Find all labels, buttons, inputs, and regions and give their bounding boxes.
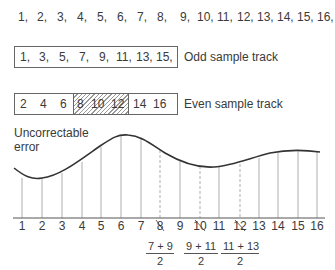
axis-tick-label: 1 bbox=[15, 219, 29, 233]
sample-lines bbox=[22, 135, 317, 218]
axis-tick-label: 2 bbox=[35, 219, 49, 233]
axis-tick-label: 16 bbox=[310, 219, 324, 233]
error-curve bbox=[14, 135, 320, 179]
axis-tick-label: 13 bbox=[252, 219, 266, 233]
axis-tick-label: 14 bbox=[271, 219, 285, 233]
interpolation-formula-8: 7 + 9 2 bbox=[146, 240, 174, 267]
axis-tick-label-crossed: 8 bbox=[153, 219, 167, 233]
axis-tick-label: 11 bbox=[212, 219, 226, 233]
axis-tick-label: 5 bbox=[94, 219, 108, 233]
axis-tick-label: 3 bbox=[55, 219, 69, 233]
interpolation-formula-12: 11 + 13 2 bbox=[221, 240, 259, 267]
axis-tick-label-crossed: 10 bbox=[193, 219, 207, 233]
interpolation-formula-10: 9 + 11 2 bbox=[184, 240, 218, 267]
axis-tick-label: 15 bbox=[291, 219, 305, 233]
axis-tick-label-crossed: 12 bbox=[233, 219, 247, 233]
axis-tick-label: 6 bbox=[114, 219, 128, 233]
axis-tick-label: 4 bbox=[75, 219, 89, 233]
axis-tick-label: 9 bbox=[173, 219, 187, 233]
axis-tick-label: 7 bbox=[134, 219, 148, 233]
